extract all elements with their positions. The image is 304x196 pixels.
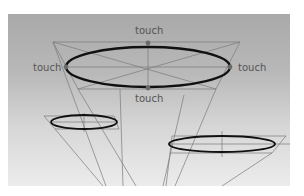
label-touch-right: touch bbox=[238, 62, 266, 73]
label-touch-left: touch bbox=[33, 62, 61, 73]
ray bbox=[120, 89, 123, 186]
touch-point-left bbox=[64, 65, 69, 70]
diagonal-2 bbox=[78, 42, 240, 89]
perspective-diagram: touch touch touch touch bbox=[0, 0, 304, 196]
ray bbox=[78, 89, 136, 186]
touch-point-bottom bbox=[146, 86, 151, 91]
perspective-square-large bbox=[53, 42, 240, 89]
touch-point-right bbox=[228, 65, 233, 70]
label-touch-bottom: touch bbox=[135, 93, 163, 104]
label-touch-top: touch bbox=[135, 25, 163, 36]
ray bbox=[222, 153, 272, 186]
touch-point-top bbox=[146, 41, 151, 46]
